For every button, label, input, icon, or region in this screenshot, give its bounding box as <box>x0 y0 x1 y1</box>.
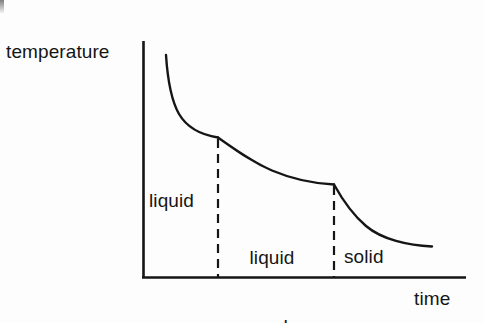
cooling-curve-liquid-segment <box>166 55 218 138</box>
cooling-curve-plateau-segment <box>218 138 334 185</box>
y-axis-label: temperature <box>6 41 110 63</box>
region-label-solid: solid <box>344 246 384 268</box>
region-label-liquid-and-solid: liquid and solid <box>229 200 315 323</box>
region-label-line-1: liquid <box>229 246 315 269</box>
cooling-curve-figure: temperature time liquid liquid and solid… <box>0 0 484 323</box>
cooling-curve-solid-segment <box>334 185 432 247</box>
region-label-line-2: and <box>229 315 315 323</box>
region-label-liquid: liquid <box>149 190 194 212</box>
x-axis-label: time <box>414 288 450 310</box>
